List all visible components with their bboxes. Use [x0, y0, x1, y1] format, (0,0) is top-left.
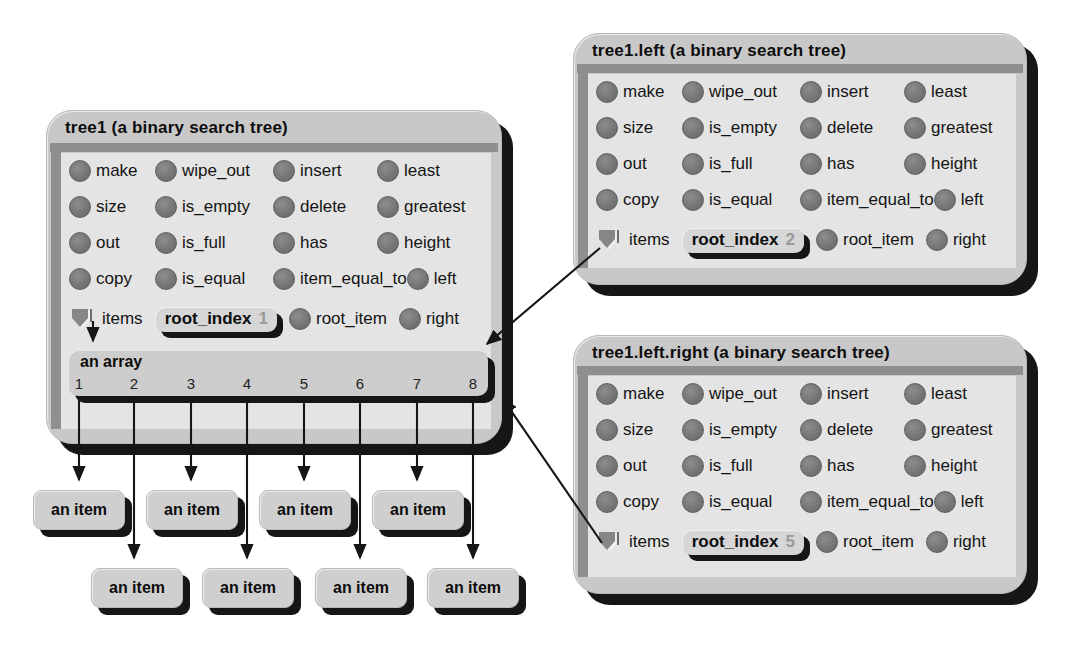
feature-dot-icon	[904, 81, 926, 103]
feature-dot-icon	[800, 189, 822, 211]
array-box: an array 1 2 3 4 5 6 7 8	[68, 350, 488, 396]
object-title: tree1.left.right (a binary search tree)	[592, 343, 890, 363]
feature-label: size	[623, 420, 653, 440]
feature-dot-icon	[377, 160, 399, 182]
feature-label: right	[953, 230, 986, 250]
feature-label: insert	[300, 161, 342, 181]
feature-dot-icon	[69, 160, 91, 182]
feature: insert	[800, 383, 904, 405]
feature: make	[69, 160, 155, 182]
feature: item_equal_to	[800, 189, 934, 211]
feature-row: out is_full has height	[588, 146, 1016, 182]
feature: is_full	[682, 153, 800, 175]
feature: greatest	[377, 196, 465, 218]
feature: has	[800, 153, 904, 175]
feature-dot-icon	[934, 491, 956, 513]
feature-label: out	[96, 233, 120, 253]
object-box-tree1-left: tree1.left (a binary search tree) make w…	[573, 33, 1027, 285]
feature: wipe_out	[682, 81, 800, 103]
feature: is_full	[682, 455, 800, 477]
root-index-value: 5	[786, 532, 795, 552]
feature-label: copy	[96, 269, 132, 289]
feature-dot-icon	[682, 491, 704, 513]
feature-dot-icon	[155, 268, 177, 290]
feature: insert	[800, 81, 904, 103]
feature: out	[69, 232, 155, 254]
feature-label: greatest	[931, 118, 992, 138]
feature: has	[800, 455, 904, 477]
feature-row: copy is_equal item_equal_to left	[61, 261, 491, 297]
feature: item_equal_to	[273, 268, 407, 290]
feature-dot-icon	[926, 229, 948, 251]
left-edge-strip	[51, 143, 61, 429]
feature-label: wipe_out	[709, 384, 777, 404]
feature-dot-icon	[682, 419, 704, 441]
feature-dot-icon	[800, 419, 822, 441]
feature-label: delete	[827, 420, 873, 440]
feature-label: copy	[623, 190, 659, 210]
feature: is_empty	[682, 419, 800, 441]
root-index-label: root_index	[165, 309, 252, 329]
feature: make	[596, 81, 682, 103]
feature-dot-icon	[399, 308, 421, 330]
feature-row: make wipe_out insert least	[61, 153, 491, 189]
feature-label: size	[96, 197, 126, 217]
feature-label: item_equal_to	[300, 269, 407, 289]
feature-dot-icon	[926, 531, 948, 553]
item-box: an item	[33, 490, 125, 530]
item-box: an item	[315, 568, 407, 608]
feature: is_full	[155, 232, 273, 254]
feature-label: right	[426, 309, 459, 329]
items-label: items	[629, 230, 670, 250]
title-separator-bar	[577, 64, 1023, 73]
feature-label: root_item	[843, 230, 914, 250]
feature-dot-icon	[273, 268, 295, 290]
feature: left	[407, 268, 457, 290]
feature-dot-icon	[289, 308, 311, 330]
feature-label: out	[623, 456, 647, 476]
feature-label: has	[827, 456, 854, 476]
feature: height	[904, 153, 977, 175]
items-label: items	[629, 532, 670, 552]
feature: copy	[69, 268, 155, 290]
item-box: an item	[427, 568, 519, 608]
feature-label: is_empty	[709, 420, 777, 440]
feature: least	[904, 383, 967, 405]
feature-dot-icon	[596, 189, 618, 211]
feature-dot-icon	[273, 160, 295, 182]
item-box: an item	[372, 490, 464, 530]
object-box-tree1-left-right: tree1.left.right (a binary search tree) …	[573, 335, 1027, 594]
feature-dot-icon	[682, 383, 704, 405]
feature-label: item_equal_to	[827, 190, 934, 210]
feature-label: make	[623, 82, 665, 102]
left-edge-strip	[578, 366, 588, 577]
feature-dot-icon	[904, 383, 926, 405]
feature-dot-icon	[800, 117, 822, 139]
feature-dot-icon	[377, 196, 399, 218]
feature-panel: make wipe_out insert least size is_empty…	[588, 74, 1016, 268]
array-index: 5	[294, 375, 314, 392]
feature-dot-icon	[682, 455, 704, 477]
feature-dot-icon	[273, 232, 295, 254]
feature: size	[596, 419, 682, 441]
feature-label: least	[931, 82, 967, 102]
feature: wipe_out	[155, 160, 273, 182]
feature-dot-icon	[682, 117, 704, 139]
feature-dot-icon	[155, 196, 177, 218]
feature-dot-icon	[155, 160, 177, 182]
feature: root_item	[816, 531, 914, 553]
feature-label: is_equal	[709, 492, 772, 512]
feature-dot-icon	[596, 455, 618, 477]
feature: is_empty	[155, 196, 273, 218]
feature-row: copy is_equal item_equal_to left	[588, 484, 1016, 520]
feature-label: size	[623, 118, 653, 138]
feature-dot-icon	[904, 455, 926, 477]
feature-row: make wipe_out insert least	[588, 376, 1016, 412]
items-bucket-icon	[596, 529, 622, 555]
feature: least	[377, 160, 440, 182]
feature-dot-icon	[682, 153, 704, 175]
feature-label: is_full	[709, 154, 752, 174]
feature-label: is_full	[182, 233, 225, 253]
feature: is_equal	[682, 491, 800, 513]
feature-dot-icon	[816, 531, 838, 553]
